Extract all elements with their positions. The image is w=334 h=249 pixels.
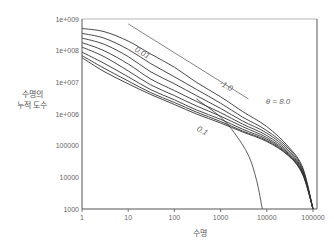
x-tick-label: 1000 xyxy=(213,214,229,221)
y-tick-label: 1e+009 xyxy=(55,16,79,23)
y-tick-label: 10000 xyxy=(60,174,80,181)
y-tick-label: 100000 xyxy=(56,142,79,149)
axes: 1101001000100001000001e+0091e+0081e+0071… xyxy=(55,16,324,222)
x-tick-label: 1 xyxy=(80,214,84,221)
x-tick-label: 10 xyxy=(124,214,132,221)
y-tick-label: 1e+008 xyxy=(55,47,79,54)
cutoff-curve xyxy=(196,99,262,209)
x-tick-label: 100000 xyxy=(301,214,324,221)
y-axis-title-line1: 수명의 xyxy=(22,89,43,99)
y-axis-title-line2: 누적 도수 xyxy=(17,100,48,110)
series-curve xyxy=(82,58,313,209)
annotation-label: 0.1 xyxy=(195,124,209,137)
curves xyxy=(82,24,313,209)
x-axis-title: 수명 xyxy=(193,228,207,238)
annotation-label: -1.0 xyxy=(218,78,235,93)
series-curve xyxy=(82,29,313,210)
series-curve xyxy=(82,33,313,209)
x-tick-label: 10000 xyxy=(257,214,277,221)
annotation-label: θ = 8.0 xyxy=(266,97,291,106)
y-tick-label: 1e+007 xyxy=(55,79,79,86)
y-tick-label: 1000 xyxy=(63,206,79,213)
x-tick-label: 100 xyxy=(169,214,181,221)
y-tick-label: 1e+006 xyxy=(55,111,79,118)
cumulative-frequency-chart: 1101001000100001000001e+0091e+0081e+0071… xyxy=(0,0,334,249)
